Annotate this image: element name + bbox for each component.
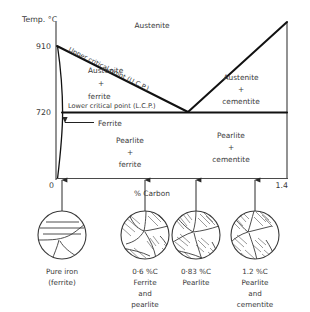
y-tick-910: 910: [36, 42, 51, 51]
ferrite-pearlite-circle: [121, 211, 169, 259]
region-label-pearlite-cementite-2: +: [228, 143, 234, 152]
microstructure-pearlite-cementite: [231, 211, 279, 263]
region-label-austenite-cementite-3: cementite: [222, 97, 260, 106]
microstructure-pure-iron: [38, 211, 88, 260]
region-labels: Austenite Austenite + ferrite Pearlite +…: [88, 21, 260, 169]
caption-pure-iron-line1: Pure iron: [46, 267, 78, 276]
caption-pearlite-line1: Pearlite: [182, 278, 210, 287]
caption-pearlite-cementite-carbon: 1.2 %C: [242, 267, 268, 276]
region-label-austenite-cementite-1: Austenite: [223, 73, 259, 82]
iron-carbon-diagram: Austenite Austenite + ferrite Pearlite +…: [0, 0, 310, 312]
x-tick-0: 0: [49, 181, 54, 190]
caption-pure-iron-line2: (ferrite): [48, 278, 76, 287]
caption-pearlite-cementite-line1: Pearlite: [241, 278, 269, 287]
y-axis-title: Temp. °C: [21, 15, 58, 24]
x-axis-title: % Carbon: [134, 189, 170, 198]
microstructure-pearlite: [172, 210, 220, 263]
pure-iron-circle: [38, 211, 86, 259]
ucp-label: Upper critical point (U.C.P.): [67, 46, 150, 93]
caption-ferrite-pearlite-line3: pearlite: [131, 300, 159, 309]
region-label-ferrite: Ferrite: [98, 119, 122, 128]
x-tick-14: 1.4: [276, 181, 288, 190]
region-label-austenite: Austenite: [134, 21, 170, 30]
region-label-pearlite-cementite-1: Pearlite: [217, 131, 245, 140]
microstructure-captions: Pure iron (ferrite) 0·6 %C Ferrite and p…: [46, 267, 274, 309]
caption-ferrite-pearlite-line1: Ferrite: [133, 278, 157, 287]
caption-pearlite-cementite-line3: cementite: [237, 300, 274, 309]
lcp-label: Lower critical point (L.C.P.): [68, 102, 156, 110]
region-label-pearlite-cementite-3: cementite: [212, 155, 250, 164]
microstructure-ferrite-pearlite: [121, 210, 172, 263]
region-label-pearlite-ferrite-1: Pearlite: [116, 136, 144, 145]
critical-point-annotations: Upper critical point (U.C.P.) Lower crit…: [67, 46, 156, 110]
phase-diagram-figure: Austenite Austenite + ferrite Pearlite +…: [0, 0, 310, 312]
region-label-pearlite-ferrite-3: ferrite: [119, 160, 142, 169]
region-label-austenite-ferrite-2: +: [98, 79, 104, 88]
region-label-austenite-ferrite-3: ferrite: [88, 92, 111, 101]
caption-pearlite-cementite-line2: and: [248, 289, 262, 298]
region-label-pearlite-ferrite-2: +: [127, 148, 133, 157]
y-tick-720: 720: [36, 108, 51, 117]
ferrite-callout: Ferrite: [65, 119, 122, 128]
caption-ferrite-pearlite-carbon: 0·6 %C: [132, 267, 158, 276]
caption-pearlite-carbon: 0·83 %C: [181, 267, 211, 276]
caption-ferrite-pearlite-line2: and: [138, 289, 152, 298]
region-label-austenite-cementite-2: +: [238, 85, 244, 94]
